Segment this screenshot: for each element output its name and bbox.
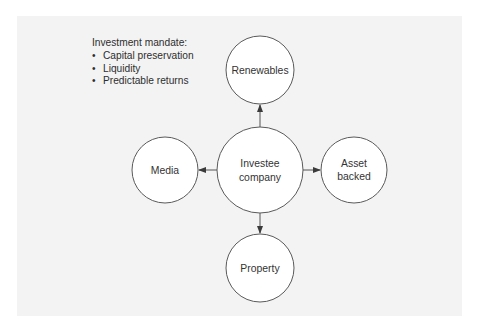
node-media-label: Media bbox=[151, 165, 180, 176]
node-investee-company-line2: company bbox=[239, 172, 282, 183]
hub-diagram: Renewables Investee company Media Asset … bbox=[0, 0, 478, 329]
node-asset-backed-line1: Asset bbox=[341, 158, 367, 169]
node-media: Media bbox=[132, 137, 198, 203]
node-renewables: Renewables bbox=[226, 36, 294, 104]
node-property: Property bbox=[226, 234, 294, 302]
node-investee-company-line1: Investee bbox=[240, 158, 280, 169]
node-property-label: Property bbox=[240, 263, 280, 274]
node-renewables-label: Renewables bbox=[231, 65, 288, 76]
node-asset-backed: Asset backed bbox=[321, 137, 387, 203]
node-asset-backed-line2: backed bbox=[337, 171, 371, 182]
node-investee-company: Investee company bbox=[217, 127, 303, 213]
